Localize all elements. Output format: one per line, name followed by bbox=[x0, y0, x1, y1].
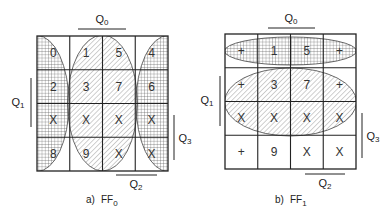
ff1-cell-r1-c1: 3 bbox=[271, 78, 278, 92]
ff1-q2-label: Q2 bbox=[318, 177, 332, 191]
ff0-cell-r3-c1: 9 bbox=[83, 147, 90, 161]
ff1-cell-r2-c0: X bbox=[237, 111, 245, 125]
ff1-cell-r2-c3: X bbox=[336, 111, 344, 125]
ff1-q1-label: Q1 bbox=[200, 94, 214, 108]
ff0-cell-r1-c3: 6 bbox=[148, 80, 155, 94]
ff1-q0-label: Q0 bbox=[284, 12, 298, 26]
ff0-cell-r1-c1: 3 bbox=[83, 80, 90, 94]
kmap-ff0: 01542376XXXX89XX Q0 Q1 Q3 Q2 a)FF0 bbox=[5, 13, 200, 208]
kmap-diagram: 01542376XXXX89XX Q0 Q1 Q3 Q2 a)FF0 +15++… bbox=[0, 0, 390, 215]
ff0-cell-r3-c0: 8 bbox=[50, 147, 57, 161]
ff0-cell-r2-c1: X bbox=[82, 113, 90, 127]
ff0-cell-r2-c3: X bbox=[148, 113, 156, 127]
ff0-q3-label: Q3 bbox=[178, 132, 192, 146]
ff1-caption: b)FF1 bbox=[275, 194, 307, 208]
ff0-cell-r2-c0: X bbox=[49, 113, 57, 127]
ff1-cell-r1-c3: + bbox=[336, 78, 343, 92]
ff0-cell-r2-c2: X bbox=[115, 113, 123, 127]
ff1-cell-r0-c1: 1 bbox=[271, 44, 278, 58]
ff1-cell-r0-c3: + bbox=[336, 44, 343, 58]
ff0-cell-r0-c3: 4 bbox=[148, 46, 155, 60]
ff0-caption: a)FF0 bbox=[86, 194, 118, 208]
ff1-cell-r3-c0: + bbox=[238, 145, 245, 159]
ff1-cell-r2-c2: X bbox=[303, 111, 311, 125]
ff0-cell-r1-c2: 7 bbox=[116, 80, 123, 94]
ff1-cell-r0-c2: 5 bbox=[304, 44, 311, 58]
ff1-cell-r3-c3: X bbox=[336, 145, 344, 159]
ff0-cell-r3-c2: X bbox=[115, 147, 123, 161]
ff0-q2-label: Q2 bbox=[129, 178, 143, 192]
ff0-cell-r0-c2: 5 bbox=[116, 46, 123, 60]
ff0-cell-r3-c3: X bbox=[148, 147, 156, 161]
ff1-q3-label: Q3 bbox=[366, 130, 380, 144]
ff0-cell-r1-c0: 2 bbox=[50, 80, 57, 94]
ff0-q0-label: Q0 bbox=[95, 13, 109, 27]
ff1-cell-r2-c1: X bbox=[270, 111, 278, 125]
ff1-cell-r1-c0: + bbox=[238, 78, 245, 92]
ff0-cell-r0-c0: 0 bbox=[50, 46, 57, 60]
kmap-ff1: +15++37+XXXX+9XX Q0 Q1 Q3 Q2 b)FF1 bbox=[200, 12, 380, 208]
ff0-q1-label: Q1 bbox=[11, 96, 25, 110]
ff1-cell-r0-c0: + bbox=[238, 44, 245, 58]
ff1-cell-r3-c1: 9 bbox=[271, 145, 278, 159]
ff0-cell-r0-c1: 1 bbox=[83, 46, 90, 60]
ff1-cell-r3-c2: X bbox=[303, 145, 311, 159]
ff1-cell-r1-c2: 7 bbox=[304, 78, 311, 92]
